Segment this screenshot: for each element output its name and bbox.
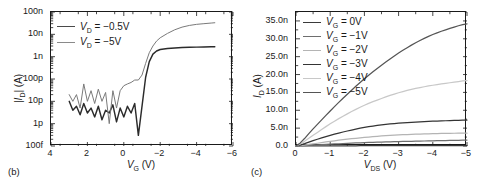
x-axis-title-subscript-c: DS — [370, 165, 380, 172]
legend-b: VD = −0.5VVD = −5V — [57, 19, 130, 50]
x-axis-title-c: VDS (V) — [364, 160, 397, 170]
x-axis-title-symbol-b: V — [127, 159, 134, 170]
x-axis-title-symbol-c: V — [364, 159, 371, 170]
legend-label-1: VG = −1V — [326, 31, 368, 41]
y-tick-label-c-5: 10.0n — [265, 105, 288, 114]
y-tick-label-c-4: 15.0n — [265, 87, 288, 96]
y-tick-label-b-4: 10p — [28, 96, 43, 105]
legend-swatch-icon-1 — [57, 42, 75, 43]
y-axis-title-c: ID (A) — [253, 74, 263, 98]
y-axis-title-unit-b: | (A) — [13, 74, 24, 93]
curve-0 — [296, 146, 467, 147]
legend-label-0: VG = 0V — [326, 17, 362, 27]
x-tick-label-c-3: −3 — [392, 149, 402, 158]
legend-item-5: VG = −5V — [303, 85, 368, 99]
x-tick-label-c-5: −5 — [461, 149, 471, 158]
x-tick-label-b-0: 4 — [47, 149, 52, 158]
legend-label-2: VG = −2V — [326, 45, 368, 55]
legend-swatch-icon-3 — [303, 64, 321, 65]
x-tick-label-c-4: −4 — [427, 149, 437, 158]
y-tick-label-c-7: 0.0 — [275, 141, 288, 150]
legend-swatch-icon-2 — [303, 50, 321, 51]
panel-transfer-characteristics: 100n10n1n100p10p1p100f 420−2−4−6 VG (V) … — [0, 0, 241, 191]
x-tick-label-b-2: 0 — [120, 149, 125, 158]
legend-label-4: VG = −4V — [326, 73, 368, 83]
legend-label-3: VG = −3V — [326, 59, 368, 69]
y-axis-tick-labels-c: 35.0n30.0n25.0n20.0n15.0n10.0n5.0n0.0 — [241, 11, 288, 145]
legend-item-0: VG = 0V — [303, 15, 368, 29]
legend-label-5: VG = −5V — [326, 87, 368, 97]
y-tick-label-c-6: 5.0n — [270, 123, 288, 132]
legend-label-1: VD = −5V — [80, 37, 121, 47]
legend-item-3: VG = −3V — [303, 57, 368, 71]
legend-c: VG = 0VVG = −1VVG = −2VVG = −3VVG = −4VV… — [303, 15, 368, 99]
legend-item-4: VG = −4V — [303, 71, 368, 85]
legend-item-1: VD = −5V — [57, 35, 130, 51]
panel-output-characteristics: 35.0n30.0n25.0n20.0n15.0n10.0n5.0n0.0 0−… — [241, 0, 482, 191]
legend-item-2: VG = −2V — [303, 43, 368, 57]
panel-tag-c: (c) — [251, 167, 262, 177]
x-tick-label-c-0: 0 — [292, 149, 297, 158]
legend-item-0: VD = −0.5V — [57, 19, 130, 35]
x-axis-title-b: VG (V) — [127, 160, 155, 170]
legend-swatch-icon-0 — [303, 22, 321, 23]
y-tick-label-b-6: 100f — [25, 141, 43, 150]
panel-tag-b: (b) — [8, 167, 20, 177]
x-tick-label-c-1: −1 — [324, 149, 334, 158]
y-tick-label-b-1: 10n — [28, 29, 43, 38]
y-axis-title-subscript-b: D — [19, 93, 26, 98]
legend-swatch-icon-4 — [303, 78, 321, 79]
y-tick-label-c-1: 30.0n — [265, 33, 288, 42]
x-tick-label-c-2: −2 — [358, 149, 368, 158]
y-axis-title-symbol-c: I — [252, 95, 263, 98]
y-axis-title-b: |ID| (A) — [14, 74, 24, 103]
y-tick-label-b-5: 1p — [33, 118, 43, 127]
x-axis-title-unit-c: (V) — [380, 159, 396, 170]
x-tick-label-b-5: −6 — [227, 149, 237, 158]
y-tick-label-c-0: 35.0n — [265, 15, 288, 24]
y-tick-label-b-2: 1n — [33, 51, 43, 60]
x-tick-label-b-1: 2 — [84, 149, 89, 158]
y-tick-label-b-0: 100n — [23, 7, 43, 16]
x-tick-label-b-3: −2 — [154, 149, 164, 158]
y-tick-label-b-3: 100p — [23, 74, 43, 83]
y-tick-label-c-3: 20.0n — [265, 69, 288, 78]
legend-label-0: VD = −0.5V — [80, 22, 130, 32]
y-axis-title-unit-c: (A) — [252, 74, 263, 90]
legend-swatch-icon-5 — [303, 92, 321, 93]
y-axis-title-symbol-b: |I — [13, 98, 24, 103]
y-axis-title-subscript-c: D — [258, 90, 265, 95]
x-tick-label-b-4: −4 — [190, 149, 200, 158]
legend-item-1: VG = −1V — [303, 29, 368, 43]
legend-swatch-icon-0 — [57, 26, 75, 27]
x-axis-title-unit-b: (V) — [139, 159, 155, 170]
legend-swatch-icon-1 — [303, 36, 321, 37]
y-tick-label-c-2: 25.0n — [265, 51, 288, 60]
